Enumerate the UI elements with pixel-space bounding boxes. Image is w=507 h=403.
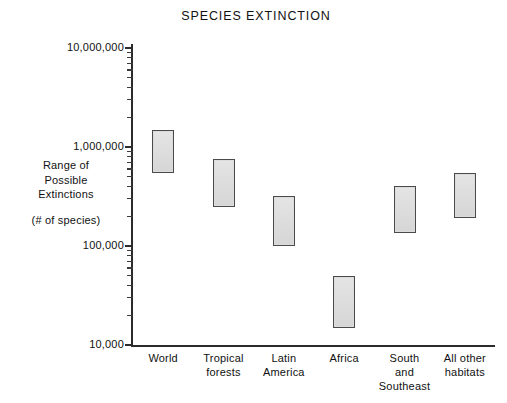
y-tick-minor	[127, 77, 133, 78]
y-tick-minor	[127, 315, 133, 316]
x-axis-label-line: Africa	[314, 351, 374, 365]
y-tick-minor	[127, 267, 133, 268]
y-tick-major	[125, 245, 133, 247]
range-bar	[152, 130, 174, 173]
y-axis-caption-line-1: Range of	[8, 158, 124, 173]
y-tick-minor	[127, 285, 133, 286]
y-tick-minor	[127, 162, 133, 163]
y-tick-minor	[127, 255, 133, 256]
x-axis-label-line: South	[374, 351, 434, 365]
y-tick-label: 10,000	[2, 338, 124, 350]
y-tick-label: 10,000,000	[2, 41, 124, 53]
y-tick-minor	[127, 186, 133, 187]
y-tick-minor	[127, 57, 133, 58]
x-axis-label-line: and	[374, 365, 434, 379]
x-axis-label-line: America	[254, 365, 314, 379]
y-tick-major	[125, 344, 133, 346]
y-tick-minor	[127, 297, 133, 298]
x-axis-label: World	[133, 351, 193, 365]
y-axis-caption: Range of Possible Extinctions (# of spec…	[8, 158, 124, 227]
chart-title: SPECIES EXTINCTION	[181, 9, 331, 23]
y-tick-minor	[127, 176, 133, 177]
x-axis-label-line: forests	[193, 365, 253, 379]
y-tick-major	[125, 146, 133, 148]
y-tick-minor	[127, 117, 133, 118]
x-axis-line	[131, 345, 495, 347]
y-tick-label: 100,000	[2, 239, 124, 251]
y-tick-minor	[127, 198, 133, 199]
x-axis-label-line: habitats	[435, 365, 495, 379]
x-axis-label-line: All other	[435, 351, 495, 365]
y-tick-minor	[127, 275, 133, 276]
y-axis-caption-line-3: Extinctions	[8, 187, 124, 202]
y-tick-minor	[127, 63, 133, 64]
y-tick-minor	[127, 99, 133, 100]
y-tick-minor	[127, 52, 133, 53]
y-axis-units-label: (# of species)	[8, 213, 124, 228]
range-bar	[213, 159, 235, 206]
y-axis-line	[131, 44, 133, 347]
y-tick-minor	[127, 69, 133, 70]
y-tick-minor	[127, 261, 133, 262]
x-axis-label-line: Latin	[254, 351, 314, 365]
x-axis-label: Africa	[314, 351, 374, 365]
y-tick-major	[125, 47, 133, 49]
range-bar	[394, 186, 416, 233]
x-axis-label: LatinAmerica	[254, 351, 314, 379]
y-tick-minor	[127, 216, 133, 217]
y-tick-minor	[127, 168, 133, 169]
y-axis-caption-line-2: Possible	[8, 173, 124, 188]
x-axis-label: SouthandSoutheast	[374, 351, 434, 393]
species-extinction-chart: SPECIES EXTINCTION 10,000,0001,000,00010…	[0, 0, 507, 403]
y-tick-label: 1,000,000	[2, 140, 124, 152]
range-bar	[454, 173, 476, 219]
y-tick-minor	[127, 250, 133, 251]
y-tick-minor	[127, 151, 133, 152]
range-bar	[333, 276, 355, 328]
range-bar	[273, 196, 295, 246]
x-axis-label-line: World	[133, 351, 193, 365]
y-tick-minor	[127, 156, 133, 157]
x-axis-label-line: Southeast	[374, 379, 434, 393]
x-axis-label: All otherhabitats	[435, 351, 495, 379]
x-axis-label-line: Tropical	[193, 351, 253, 365]
x-axis-label: Tropicalforests	[193, 351, 253, 379]
y-tick-minor	[127, 87, 133, 88]
